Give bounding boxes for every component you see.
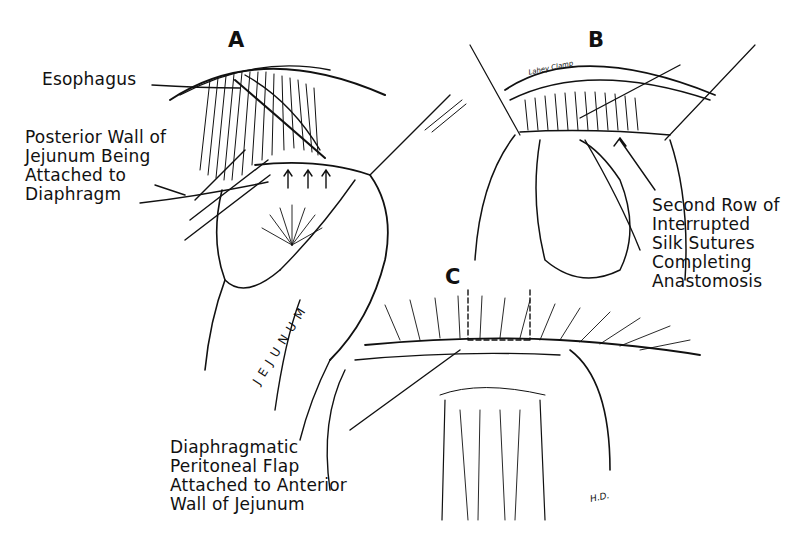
panel-label-a: A xyxy=(228,28,244,52)
label-esophagus: Esophagus xyxy=(42,70,136,89)
label-posterior-wall: Posterior Wall of Jejunum Being Attached… xyxy=(25,128,166,204)
panel-label-c: C xyxy=(445,265,460,289)
panel-label-b: B xyxy=(588,28,604,52)
label-diaphragmatic-flap: Diaphragmatic Peritoneal Flap Attached t… xyxy=(170,438,347,514)
label-second-row: Second Row of Interrupted Silk Sutures C… xyxy=(652,196,780,291)
